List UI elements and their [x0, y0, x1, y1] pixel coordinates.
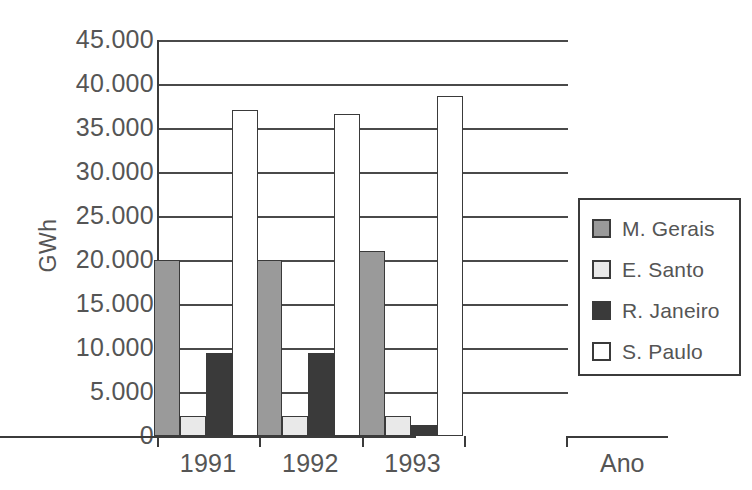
- gridline: [159, 84, 568, 86]
- y-tick-label: 40.000: [76, 71, 154, 96]
- x-tick-label: 1991: [157, 449, 259, 477]
- x-axis-title: Ano: [600, 449, 644, 477]
- x-tick-mark: [464, 436, 466, 447]
- legend-label: R. Janeiro: [622, 300, 720, 321]
- legend-item-r-janeiro[interactable]: R. Janeiro: [592, 296, 720, 324]
- legend-swatch-icon: [592, 219, 611, 238]
- legend-label: S. Paulo: [622, 341, 703, 362]
- x-tick-mark: [362, 436, 364, 447]
- y-tick-label: 35.000: [76, 115, 154, 140]
- legend-swatch-icon: [592, 342, 611, 361]
- y-tick-label: 10.000: [76, 335, 154, 360]
- bar-s-paulo-1992: [334, 114, 360, 436]
- bar-s-paulo-1991: [232, 110, 258, 436]
- y-tick-label: 45.000: [76, 27, 154, 52]
- y-tick-label: 5.000: [90, 379, 154, 404]
- x-tick-label: 1993: [362, 449, 464, 477]
- gridline: [159, 172, 568, 174]
- gridline: [159, 216, 568, 218]
- y-tick-label: 25.000: [76, 203, 154, 228]
- bar-chart-figure: GWh 45.00040.00035.00030.00025.00020.000…: [0, 0, 752, 490]
- bar-e-santo-1992: [282, 416, 308, 436]
- bar-r-janeiro-1992: [308, 353, 334, 436]
- x-axis-line: [0, 436, 416, 438]
- x-tick-mark: [157, 436, 159, 447]
- x-tick-label: 1992: [259, 449, 361, 477]
- y-axis-tick-labels: 45.00040.00035.00030.00025.00020.00015.0…: [36, 0, 154, 490]
- legend-swatch-icon: [592, 260, 611, 279]
- legend-box: M. GeraisE. SantoR. JaneiroS. Paulo: [578, 198, 741, 376]
- plot-area: [157, 40, 566, 436]
- legend-label: E. Santo: [622, 259, 704, 280]
- y-tick-label: 30.000: [76, 159, 154, 184]
- bar-r-janeiro-1991: [206, 353, 232, 436]
- bar-m-gerais-1993: [359, 251, 385, 436]
- bar-r-janeiro-1993: [411, 425, 437, 436]
- legend-label: M. Gerais: [622, 218, 715, 239]
- legend-item-m-gerais[interactable]: M. Gerais: [592, 214, 715, 242]
- legend-item-s-paulo[interactable]: S. Paulo: [592, 337, 703, 365]
- x-axis-extension: [566, 436, 668, 438]
- y-tick-label: 20.000: [76, 247, 154, 272]
- gridline: [159, 128, 568, 130]
- legend-item-e-santo[interactable]: E. Santo: [592, 255, 704, 283]
- legend-swatch-icon: [592, 301, 611, 320]
- bar-e-santo-1991: [180, 416, 206, 436]
- y-tick-label: 15.000: [76, 291, 154, 316]
- x-tick-mark: [566, 436, 568, 447]
- bar-s-paulo-1993: [437, 96, 463, 436]
- bar-m-gerais-1991: [154, 260, 180, 436]
- bar-m-gerais-1992: [256, 260, 282, 436]
- bar-e-santo-1993: [385, 416, 411, 436]
- gridline: [159, 40, 568, 42]
- x-tick-mark: [259, 436, 261, 447]
